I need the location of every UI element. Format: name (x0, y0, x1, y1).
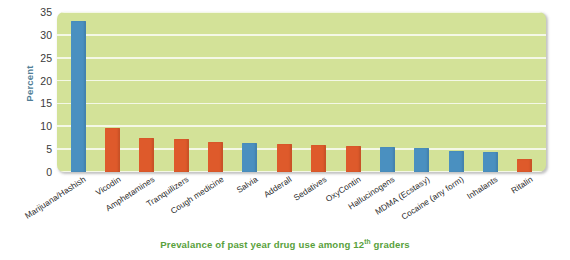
bar-slot (130, 12, 164, 172)
bar-slot (370, 12, 404, 172)
y-tick-label: 20 (24, 75, 52, 87)
x-tick-label: Ritalin (509, 174, 534, 195)
x-tick-label: Sedatives (291, 174, 328, 203)
bar[interactable] (517, 159, 532, 172)
bar[interactable] (71, 21, 86, 172)
bar-slot (473, 12, 507, 172)
bar-slot (508, 12, 542, 172)
bar[interactable] (380, 147, 395, 172)
bar-chart-figure: Percent 05101520253035 Marijuana/Hashish… (0, 0, 570, 260)
bar-slot (198, 12, 232, 172)
y-tick-label: 35 (24, 6, 52, 18)
bar[interactable] (483, 152, 498, 172)
y-tick-label: 25 (24, 52, 52, 64)
y-tick-label: 5 (24, 143, 52, 155)
bar[interactable] (105, 128, 120, 172)
x-tick-label: Marijuana/Hashish (23, 174, 88, 221)
y-tick-label: 0 (24, 166, 52, 178)
y-tick-label: 30 (24, 29, 52, 41)
bar[interactable] (346, 146, 361, 173)
x-tick-label: Adderall (262, 174, 294, 199)
bar-slot (233, 12, 267, 172)
x-tick-label: Inhalants (465, 174, 499, 201)
bar[interactable] (449, 151, 464, 172)
y-tick-label: 10 (24, 120, 52, 132)
bar-slot (95, 12, 129, 172)
plot-area (57, 12, 546, 172)
bar[interactable] (242, 143, 257, 172)
bar-slot (439, 12, 473, 172)
bar[interactable] (174, 139, 189, 172)
bar[interactable] (139, 138, 154, 172)
x-tick-label: Salvia (234, 174, 259, 195)
y-axis-tick-labels: 05101520253035 (24, 12, 52, 172)
chart-caption: Prevalance of past year drug use among 1… (0, 238, 570, 250)
bar-series (57, 12, 546, 172)
bar-slot (61, 12, 95, 172)
bar[interactable] (277, 144, 292, 172)
x-axis-tick-labels: Marijuana/HashishVicodinAmphetaminesTran… (57, 172, 546, 232)
x-tick-label: Cocaine (any form) (399, 174, 465, 222)
y-tick-label: 15 (24, 97, 52, 109)
x-tick-label: Vicodin (93, 174, 122, 198)
bar[interactable] (208, 142, 223, 172)
bar[interactable] (311, 145, 326, 172)
bar-slot (302, 12, 336, 172)
caption-prefix: Prevalance of past year drug use among 1… (160, 239, 364, 250)
bar-slot (164, 12, 198, 172)
bar-slot (336, 12, 370, 172)
bar[interactable] (414, 148, 429, 172)
bar-slot (267, 12, 301, 172)
bar-slot (405, 12, 439, 172)
caption-suffix: graders (371, 239, 410, 250)
